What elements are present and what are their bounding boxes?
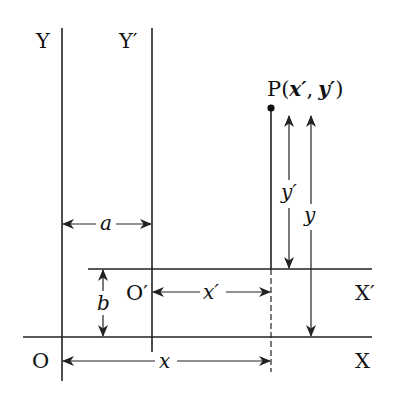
coordinate-translation-diagram: Y Y′ X′ X O O′ P(x′,y′) a b x′ x y′ y [0,0,398,407]
translated-origin-label: O′ [126,281,148,305]
point-label: P(x′,y′) [267,77,343,101]
x-prime-label: x′ [203,280,219,304]
a-label: a [100,211,112,235]
x-prime-axis-label: X′ [355,281,375,305]
y-prime-label: y′ [280,180,297,204]
x-label: x [159,349,170,373]
origin-label: O [32,349,49,373]
y-label: y [303,203,316,227]
x-axis-label: X [355,349,370,373]
y-prime-axis-label: Y′ [118,29,138,53]
b-label: b [97,291,110,315]
y-axis-label: Y [35,29,51,53]
point-p-dot [267,104,274,111]
